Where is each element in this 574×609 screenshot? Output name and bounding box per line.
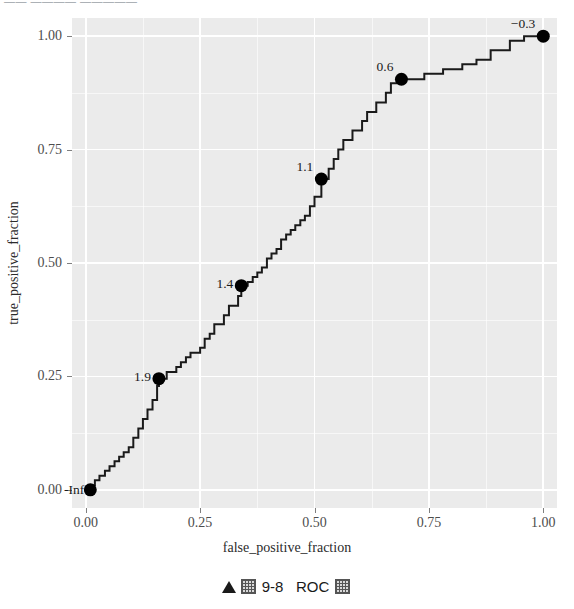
y-tick-label-0: 0.00 <box>38 482 63 498</box>
roc-point-2 <box>235 279 248 292</box>
caption-number: 9-8 <box>262 578 284 595</box>
y-tick-mark-1 <box>67 376 72 377</box>
x-axis-title: false_positive_fraction <box>0 540 574 556</box>
y-tick-mark-2 <box>67 263 72 264</box>
x-tick-label-4: 1.00 <box>531 515 556 531</box>
roc-threshold-points <box>84 30 550 497</box>
x-tick-label-3: 0.75 <box>417 515 442 531</box>
roc-point-label-4: 0.6 <box>377 59 394 75</box>
y-tick-mark-3 <box>67 150 72 151</box>
x-tick-label-2: 0.50 <box>302 515 327 531</box>
roc-chart-figure: 0.000.250.500.751.000.000.250.500.751.00… <box>0 0 574 570</box>
y-tick-label-4: 1.00 <box>38 28 63 44</box>
roc-point-label-0: -Inf <box>64 482 84 498</box>
roc-point-4 <box>395 73 408 86</box>
figure-caption: 9-8 ROC <box>0 578 574 595</box>
roc-point-label-3: 1.1 <box>296 159 313 175</box>
y-tick-label-3: 0.75 <box>38 142 63 158</box>
x-tick-label-0: 0.00 <box>73 515 98 531</box>
roc-point-1 <box>152 372 165 385</box>
roc-point-0 <box>84 483 97 496</box>
x-tick-label-1: 0.25 <box>188 515 213 531</box>
y-axis-title: true_positive_fraction <box>6 201 22 325</box>
triangle-up-icon <box>222 581 236 593</box>
x-tick-mark-2 <box>315 508 316 513</box>
x-tick-mark-4 <box>543 508 544 513</box>
x-tick-mark-0 <box>86 508 87 513</box>
missing-glyph-box-icon-2 <box>335 579 350 594</box>
roc-point-3 <box>315 173 328 186</box>
caption-title: ROC <box>296 578 329 595</box>
y-tick-label-1: 0.25 <box>38 368 63 384</box>
roc-point-label-5: −0.3 <box>511 16 536 32</box>
roc-step-curve <box>72 18 557 508</box>
x-tick-mark-1 <box>200 508 201 513</box>
roc-point-label-1: 1.9 <box>134 369 151 385</box>
roc-point-label-2: 1.4 <box>216 276 233 292</box>
plot-panel <box>72 18 557 508</box>
y-tick-label-2: 0.50 <box>38 255 63 271</box>
missing-glyph-box-icon <box>241 579 256 594</box>
roc-curve-line <box>90 36 543 490</box>
x-tick-mark-3 <box>429 508 430 513</box>
y-tick-mark-4 <box>67 36 72 37</box>
roc-point-5 <box>537 30 550 43</box>
